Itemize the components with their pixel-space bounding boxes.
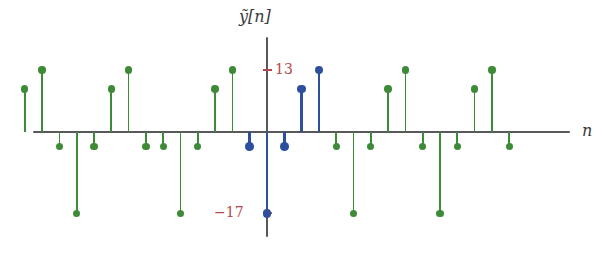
stem-marker xyxy=(384,85,391,92)
y-tick-mark-positive xyxy=(263,69,272,71)
stem-marker xyxy=(73,210,80,217)
stem-line xyxy=(300,89,303,132)
stem-marker xyxy=(108,85,115,92)
stem-marker xyxy=(436,210,443,217)
stem-marker xyxy=(280,142,289,151)
stem-marker xyxy=(142,143,149,150)
stem-plot-figure: 13 −17 ỹ[n] n xyxy=(0,0,610,254)
stem-marker xyxy=(177,210,184,217)
stem-marker xyxy=(21,85,28,92)
y-tick-label-13: 13 xyxy=(275,62,293,76)
stem-marker xyxy=(211,85,218,92)
stem-marker xyxy=(402,66,409,73)
stem-marker xyxy=(245,142,254,151)
stem-marker xyxy=(297,85,306,94)
stem-marker xyxy=(263,209,272,218)
stem-line xyxy=(353,132,355,213)
stem-marker xyxy=(315,66,324,75)
stem-marker xyxy=(90,143,97,150)
stem-marker xyxy=(454,143,461,150)
stem-line xyxy=(266,132,269,213)
stem-marker xyxy=(419,143,426,150)
stem-marker xyxy=(506,143,513,150)
stem-line xyxy=(110,89,112,132)
stem-line xyxy=(491,70,493,132)
stem-line xyxy=(41,70,43,132)
stem-line xyxy=(232,70,234,132)
stem-line xyxy=(474,89,476,132)
stem-line xyxy=(76,132,78,213)
stem-line xyxy=(405,70,407,132)
stem-line xyxy=(24,89,26,132)
stem-line xyxy=(128,70,130,132)
stem-marker xyxy=(194,143,201,150)
stem-marker xyxy=(333,143,340,150)
stem-line xyxy=(180,132,182,213)
stem-marker xyxy=(367,143,374,150)
x-axis-label: n xyxy=(582,123,592,139)
y-axis-label: ỹ[n] xyxy=(239,9,271,25)
stem-line xyxy=(318,70,321,132)
stem-marker xyxy=(229,66,236,73)
stem-line xyxy=(439,132,441,213)
stem-marker xyxy=(125,66,132,73)
stem-line xyxy=(387,89,389,132)
stem-marker xyxy=(38,66,45,73)
stem-marker xyxy=(471,85,478,92)
stem-marker xyxy=(56,143,63,150)
y-tick-label-minus-17: −17 xyxy=(214,205,244,219)
stem-line xyxy=(214,89,216,132)
stem-marker xyxy=(160,143,167,150)
stem-marker xyxy=(350,210,357,217)
stem-marker xyxy=(488,66,495,73)
